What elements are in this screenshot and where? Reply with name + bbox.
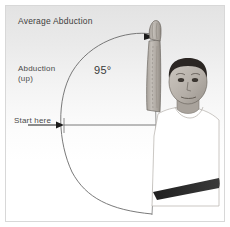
abduction-diagram: Average Abduction Abduction (up) Start h… [0, 0, 230, 227]
axis-label-direction: (up) [18, 74, 33, 84]
angle-value-label: 95° [94, 64, 112, 76]
raised-hand [149, 20, 161, 41]
patient-head [169, 58, 207, 104]
raised-arm [147, 40, 161, 112]
start-here-label: Start here [14, 116, 51, 126]
diagram-frame: Average Abduction Abduction (up) Start h… [5, 5, 225, 222]
page-title: Average Abduction [18, 16, 93, 26]
axis-label-abduction: Abduction [18, 64, 55, 74]
diagram-canvas [6, 6, 225, 222]
abduction-range-arc [61, 33, 152, 214]
